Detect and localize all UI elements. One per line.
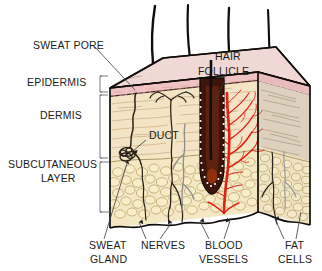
label-subcutaneous-layer-line1: SUBCUTANEOUS xyxy=(8,158,97,170)
skin-cross-section-illustration: SWEAT PORE EPIDERMIS DERMIS SUBCUTANEOUS… xyxy=(0,0,322,271)
layer-brackets xyxy=(100,76,110,212)
label-sweat-gland-line2: GLAND xyxy=(90,253,127,265)
label-epidermis: EPIDERMIS xyxy=(27,76,87,88)
skin-diagram: SWEAT PORE EPIDERMIS DERMIS SUBCUTANEOUS… xyxy=(0,0,322,271)
bracket-subcutaneous xyxy=(100,162,102,212)
label-sweat-pore: SWEAT PORE xyxy=(33,39,104,51)
label-hair-follicle-line1: HAIR xyxy=(215,50,241,62)
label-dermis: DERMIS xyxy=(40,109,82,121)
leader-sweat-pore xyxy=(95,47,135,90)
label-fat-cells-line2: CELLS xyxy=(278,253,312,265)
label-hair-follicle-line2: FOLLICLE xyxy=(198,65,249,77)
label-blood-vessels-line2: VESSELS xyxy=(199,253,248,265)
leader-nerves-left xyxy=(139,222,146,239)
label-fat-cells-line1: FAT xyxy=(285,239,304,251)
bracket-epidermis xyxy=(100,76,102,92)
label-blood-vessels-line1: BLOOD xyxy=(205,239,243,251)
label-subcutaneous-layer-line2: LAYER xyxy=(41,172,76,184)
label-nerves: NERVES xyxy=(141,239,185,251)
label-sweat-gland-line1: SWEAT xyxy=(89,239,127,251)
label-duct: DUCT xyxy=(149,129,179,141)
bracket-dermis xyxy=(100,95,102,158)
leader-blood-vessels-right xyxy=(224,221,230,239)
hair-follicle xyxy=(199,60,224,194)
leader-fat-cells-left xyxy=(275,219,284,239)
